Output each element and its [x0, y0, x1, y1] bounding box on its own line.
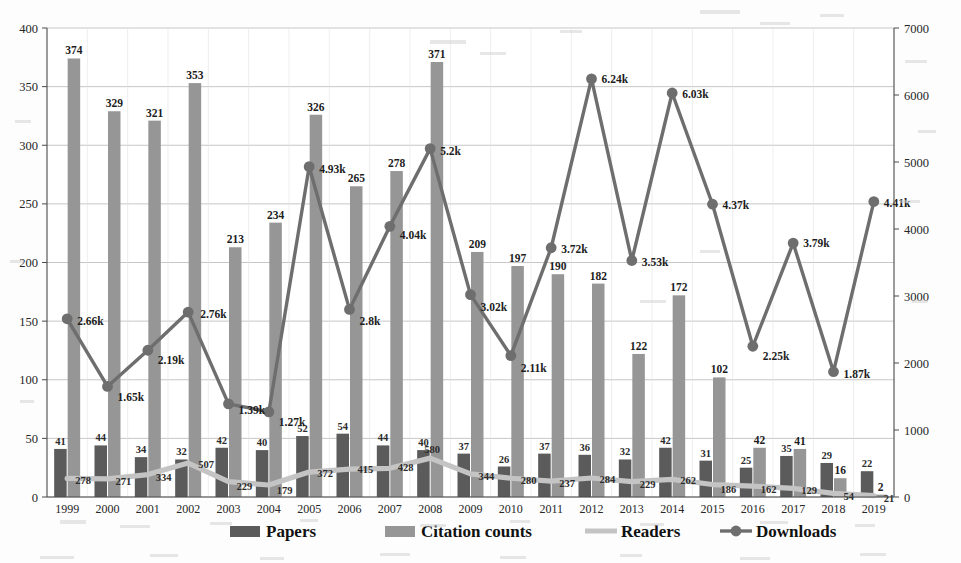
left-axis-tick-label: 350 [19, 80, 38, 94]
marker-downloads [747, 341, 758, 352]
bar-label-citation-counts: 182 [590, 270, 608, 282]
line-label-downloads: 2.25k [763, 350, 790, 362]
bar-citation-counts [229, 247, 242, 497]
right-axis-tick-label: 6000 [904, 89, 929, 103]
bar-citation-counts [511, 266, 524, 497]
category-tick-label: 2019 [862, 502, 886, 516]
scan-artifact [700, 10, 740, 14]
line-label-readers: 186 [721, 484, 737, 495]
line-label-downloads: 2.66k [77, 315, 104, 327]
line-label-readers: 129 [801, 485, 817, 496]
marker-downloads [707, 199, 718, 210]
bar-label-citation-counts: 190 [549, 260, 567, 272]
right-axis-tick-label: 2000 [904, 357, 929, 371]
marker-downloads [304, 161, 315, 172]
line-label-downloads: 2.76k [200, 308, 227, 320]
category-tick-label: 2000 [96, 502, 120, 516]
scan-artifact [860, 553, 886, 556]
line-label-readers: 507 [198, 459, 214, 470]
category-tick-label: 2016 [741, 502, 765, 516]
category-tick-label: 2002 [176, 502, 200, 516]
line-label-readers: 580 [424, 444, 440, 455]
bar-label-citation-counts: 265 [348, 172, 366, 184]
left-axis-tick-label: 300 [19, 139, 38, 153]
scan-artifact [640, 300, 666, 303]
bar-citation-counts [148, 121, 161, 497]
bar-citation-counts [108, 111, 121, 497]
line-label-downloads: 3.02k [481, 301, 508, 313]
bar-label-papers: 29 [821, 450, 832, 461]
bar-label-papers: 44 [95, 432, 106, 443]
bar-citation-counts [269, 223, 282, 497]
bar-label-citation-counts: 41 [794, 435, 806, 447]
bar-papers [659, 448, 672, 497]
bar-citation-counts [350, 186, 363, 497]
category-tick-label: 2018 [822, 502, 846, 516]
scan-artifact [150, 554, 178, 557]
scan-artifact [700, 250, 720, 253]
chart-container: 4137444329343213235342213402345232654265… [0, 0, 961, 563]
marker-downloads [546, 242, 557, 253]
marker-downloads [62, 313, 73, 324]
category-tick-label: 2003 [217, 502, 241, 516]
bar-papers [377, 445, 390, 497]
line-label-downloads: 2.11k [521, 362, 547, 374]
bar-papers [94, 445, 107, 497]
line-label-downloads: 3.53k [642, 256, 669, 268]
bar-papers [336, 434, 349, 497]
bar-citation-counts [552, 274, 565, 497]
scan-artifact [855, 524, 875, 527]
category-tick-label: 2008 [418, 502, 442, 516]
marker-downloads [505, 350, 516, 361]
category-tick-label: 2004 [257, 502, 281, 516]
line-label-downloads: 5.2k [440, 145, 461, 157]
bar-label-papers: 37 [539, 441, 550, 452]
left-axis-tick-label: 400 [19, 22, 38, 36]
bar-label-papers: 42 [660, 435, 671, 446]
line-label-readers: 229 [640, 479, 656, 490]
bar-label-papers: 35 [781, 443, 792, 454]
category-tick-label: 2012 [580, 502, 604, 516]
category-tick-label: 2001 [136, 502, 160, 516]
marker-downloads [868, 196, 879, 207]
line-label-readers: 344 [479, 471, 496, 482]
scan-artifact [905, 60, 927, 63]
bar-papers [498, 467, 511, 497]
bar-citation-counts [431, 62, 444, 497]
scan-artifact [260, 557, 284, 560]
bar-label-papers: 54 [337, 421, 348, 432]
legend-marker-downloads [731, 526, 742, 537]
bar-papers [780, 456, 793, 497]
bar-label-papers: 32 [620, 446, 631, 457]
bar-papers [538, 454, 551, 497]
bar-papers [740, 468, 753, 497]
scan-artifact [300, 519, 318, 522]
bar-label-papers: 26 [499, 454, 510, 465]
bar-label-citation-counts: 16 [835, 464, 847, 476]
scan-artifact [918, 130, 936, 133]
marker-downloads [586, 74, 597, 85]
category-tick-label: 2010 [499, 502, 523, 516]
scan-artifact [40, 556, 74, 559]
bar-label-citation-counts: 172 [670, 281, 688, 293]
scan-artifact [912, 300, 928, 303]
line-label-readers: 278 [75, 475, 91, 486]
legend-swatch-papers [230, 526, 260, 537]
bar-label-citation-counts: 321 [146, 107, 164, 119]
scan-artifact [20, 400, 34, 403]
scan-artifact [560, 30, 582, 33]
bar-citation-counts [189, 83, 202, 497]
gridlines [47, 28, 894, 497]
line-label-readers: 179 [277, 485, 293, 496]
legend-label: Papers [266, 522, 316, 541]
category-tick-label: 1999 [55, 502, 79, 516]
bar-label-papers: 36 [579, 442, 590, 453]
scan-artifact [760, 22, 790, 25]
scan-artifact [210, 522, 232, 525]
marker-downloads [788, 238, 799, 249]
right-axis-tick-label: 1000 [904, 424, 929, 438]
line-label-downloads: 3.72k [561, 243, 588, 255]
bar-citation-counts [68, 58, 81, 497]
right-axis-tick-label: 4000 [904, 223, 929, 237]
marker-downloads [223, 398, 234, 409]
